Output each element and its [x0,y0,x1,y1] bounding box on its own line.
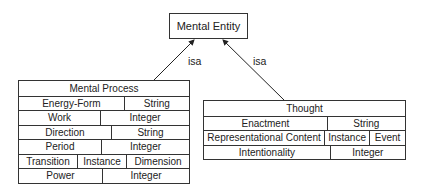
table-cell: Transition [19,155,77,169]
table-cell: String [111,126,189,140]
table-cell: Power [19,169,102,183]
table-row: PowerInteger [19,168,189,183]
table-row: IntentionalityInteger [204,145,405,160]
table-cell: Integer [102,169,189,183]
table-cell: Representational Content [204,131,324,145]
table-cell: Period [19,140,101,154]
isa-label: isa [253,55,266,67]
table-cell: Work [19,111,100,125]
thought-table: ThoughtEnactmentStringRepresentational C… [203,100,406,160]
table-cell: Integer [101,140,189,154]
table-cell: Integer [100,111,189,125]
table-cell: Event [369,131,405,145]
table-cell: String [124,97,189,111]
table-row: TransitionInstanceDimension [19,154,189,169]
table-cell: Direction [19,126,111,140]
mental-entity-node: Mental Entity [169,13,248,39]
table-cell: Instance [324,131,369,145]
table-title: Thought [204,101,405,116]
table-cell: Instance [77,155,126,169]
table-cell: Intentionality [204,146,330,160]
table-row: DirectionString [19,125,189,140]
table-cell: Dimension [126,155,189,169]
table-cell: Enactment [204,117,327,131]
table-row: Representational ContentInstanceEvent [204,130,405,145]
table-row: Energy-FormString [19,96,189,111]
table-title: Mental Process [19,81,189,96]
node-title: Mental Entity [177,20,241,32]
table-row: EnactmentString [204,116,405,131]
table-cell: Energy-Form [19,97,124,111]
table-row: WorkInteger [19,110,189,125]
table-cell: String [327,117,405,131]
isa-label: isa [188,55,201,67]
table-cell: Integer [330,146,405,160]
mental-process-table: Mental ProcessEnergy-FormStringWorkInteg… [18,80,190,184]
table-row: PeriodInteger [19,139,189,154]
